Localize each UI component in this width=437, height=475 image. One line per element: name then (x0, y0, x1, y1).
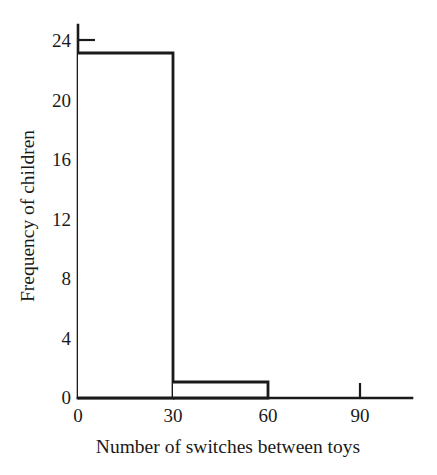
x-tick-label-30: 30 (164, 405, 183, 426)
bar-bin-0-30 (78, 53, 173, 398)
x-tick-label-60: 60 (259, 405, 278, 426)
x-tick-label-0: 0 (73, 405, 83, 426)
y-tick-label-16: 16 (52, 149, 71, 170)
y-tick-label-8: 8 (62, 268, 72, 289)
x-tick-label-90: 90 (351, 405, 370, 426)
chart-canvas: 24 20 16 12 8 4 0 0 30 60 90 Number of s… (0, 0, 437, 475)
y-tick-label-4: 4 (62, 328, 72, 349)
y-tick-label-0: 0 (62, 387, 72, 408)
y-axis-title: Frequency of children (17, 130, 38, 302)
histogram-figure: 24 20 16 12 8 4 0 0 30 60 90 Number of s… (0, 0, 437, 475)
y-tick-label-20: 20 (52, 90, 71, 111)
bar-bin-30-60 (173, 382, 268, 398)
x-axis-title: Number of switches between toys (96, 436, 360, 457)
y-tick-label-24: 24 (52, 30, 72, 51)
y-tick-label-12: 12 (52, 209, 71, 230)
